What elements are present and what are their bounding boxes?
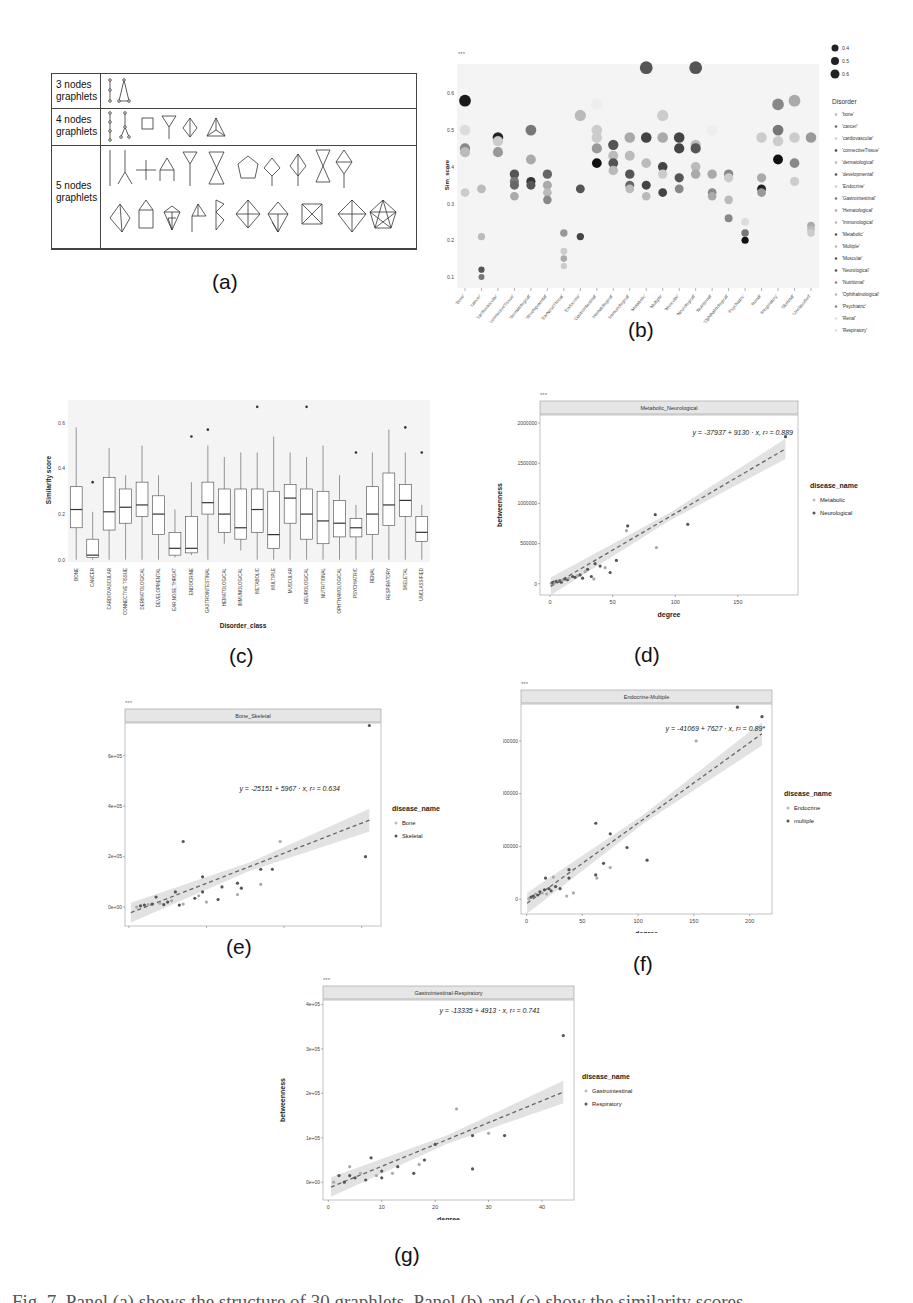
data-point — [773, 136, 783, 146]
svg-text:1000000: 1000000 — [503, 790, 518, 796]
svg-text:NUTRITIONAL: NUTRITIONAL — [321, 568, 326, 598]
x-axis-title: degree — [437, 1216, 460, 1220]
svg-text:***: *** — [458, 51, 466, 57]
data-point — [609, 866, 612, 869]
data-point — [592, 577, 595, 580]
legend-title: disease_name — [810, 482, 858, 489]
chart-g-gastrointestinal-respiratory: ***Gastrointestinal-Respiratory0e+001e+0… — [255, 975, 655, 1220]
svg-text:'Immunological': 'Immunological' — [842, 220, 873, 225]
svg-text:6e+05: 6e+05 — [108, 753, 122, 759]
data-point — [773, 155, 783, 165]
svg-text:30: 30 — [485, 1204, 491, 1210]
data-point — [343, 1181, 346, 1184]
figure-caption: Fig. 7. Panel (a) shows the structure of… — [12, 1290, 912, 1303]
svg-text:0.6: 0.6 — [842, 71, 849, 77]
data-point — [655, 546, 658, 549]
data-point — [375, 1174, 378, 1177]
data-point — [560, 229, 567, 236]
box — [416, 516, 428, 541]
data-point — [689, 61, 702, 74]
data-point — [526, 125, 537, 136]
data-point — [240, 887, 243, 890]
y-axis: 0.00.20.40.6 — [58, 420, 65, 563]
data-point — [162, 903, 165, 906]
svg-text:'cancer': 'cancer' — [842, 124, 858, 129]
data-point — [562, 1034, 565, 1037]
svg-text:CARDIOVASCULAR: CARDIOVASCULAR — [107, 567, 112, 609]
data-point — [725, 214, 733, 222]
graphlet-icon — [109, 79, 131, 103]
svg-text:0.0: 0.0 — [58, 557, 65, 563]
panel-label-a: (a) — [212, 270, 238, 294]
data-point — [756, 132, 767, 143]
svg-text:MUSCULAR: MUSCULAR — [288, 567, 293, 593]
data-point — [595, 877, 598, 880]
data-point — [789, 132, 800, 143]
svg-text:0: 0 — [534, 581, 537, 587]
legend-title: disease_name — [392, 805, 440, 812]
data-point — [708, 192, 717, 201]
data-point — [674, 143, 684, 153]
data-point — [691, 169, 700, 178]
data-point — [592, 132, 603, 143]
data-point — [174, 890, 177, 893]
data-point — [510, 192, 519, 201]
data-point — [558, 887, 561, 890]
legend-entry: Metabolic — [820, 497, 845, 503]
x-axis-title: degree — [635, 930, 658, 933]
data-point — [695, 739, 698, 742]
data-point — [626, 524, 629, 527]
data-point — [789, 95, 801, 107]
legend-title: disease_name — [784, 790, 832, 797]
plot-background — [68, 400, 430, 562]
data-point — [391, 1172, 394, 1175]
svg-text:OPHTHAMOLOGICAL: OPHTHAMOLOGICAL — [337, 568, 342, 614]
data-point — [455, 1107, 458, 1110]
svg-text:2000000: 2000000 — [518, 420, 538, 426]
svg-text:100: 100 — [634, 918, 643, 924]
svg-text:***: *** — [540, 392, 548, 398]
svg-text:0: 0 — [327, 1204, 330, 1210]
svg-text:40: 40 — [539, 1204, 545, 1210]
svg-text:BONE: BONE — [74, 568, 79, 581]
box — [317, 491, 329, 543]
data-point — [536, 893, 539, 896]
data-point — [182, 840, 185, 843]
svg-text:0: 0 — [548, 599, 551, 605]
svg-text:Disorder: Disorder — [832, 98, 857, 105]
svg-text:CANCER: CANCER — [90, 567, 95, 587]
graphlet-icon — [109, 112, 225, 142]
data-point — [139, 904, 142, 907]
svg-text:'Renal': 'Renal' — [842, 316, 856, 321]
data-point — [772, 99, 784, 111]
svg-text:'Respiratory': 'Respiratory' — [842, 328, 867, 333]
svg-text:20: 20 — [432, 1204, 438, 1210]
svg-text:'bone': 'bone' — [454, 293, 465, 305]
facet-title: Metabolic_Neurological — [640, 405, 697, 411]
data-point — [576, 184, 585, 193]
svg-text:500000: 500000 — [503, 843, 518, 849]
data-point — [609, 166, 618, 175]
box — [383, 473, 395, 525]
svg-text:1000000: 1000000 — [518, 500, 538, 506]
svg-text:100: 100 — [671, 599, 680, 605]
svg-text:'cardiovascular': 'cardiovascular' — [842, 136, 873, 141]
data-point — [279, 840, 282, 843]
graphlet-icon — [110, 200, 396, 232]
data-point — [178, 903, 181, 906]
svg-text:1500000: 1500000 — [503, 738, 518, 744]
data-point — [552, 875, 555, 878]
svg-text:0.5: 0.5 — [842, 58, 849, 64]
svg-text:1e+05: 1e+05 — [306, 1135, 320, 1141]
data-point — [640, 61, 653, 74]
box — [70, 487, 82, 528]
data-point — [642, 192, 651, 201]
data-point — [592, 158, 602, 168]
svg-text:1500000: 1500000 — [518, 460, 538, 466]
svg-text:'Neurological': 'Neurological' — [842, 268, 869, 273]
data-point — [541, 891, 544, 894]
data-point — [625, 169, 634, 178]
data-point — [478, 267, 484, 273]
data-point — [625, 184, 634, 193]
svg-text:'Hematological': 'Hematological' — [842, 208, 873, 213]
